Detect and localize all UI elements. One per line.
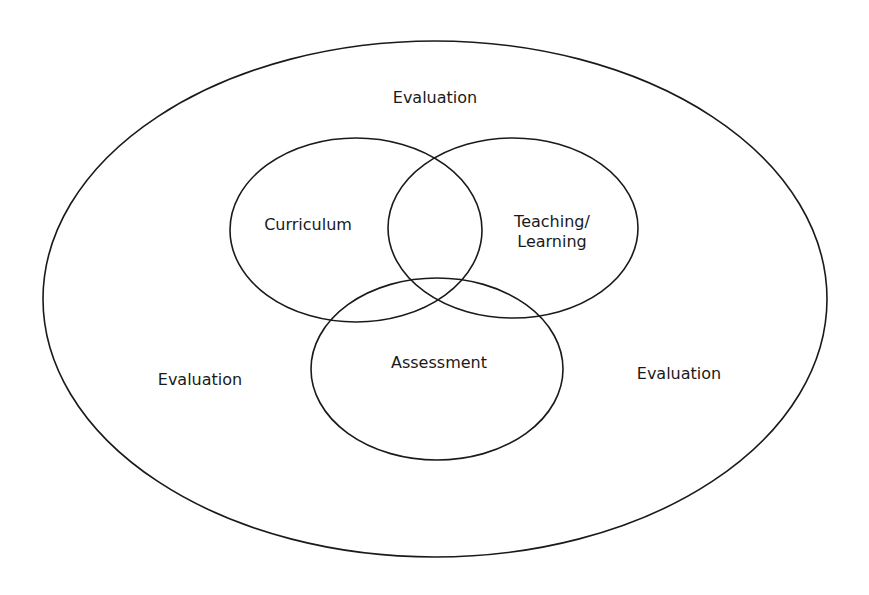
- teaching-learning-circle: [388, 138, 638, 318]
- learning-label: Learning: [517, 232, 586, 251]
- evaluation-label-left: Evaluation: [158, 370, 242, 389]
- curriculum-label: Curriculum: [264, 215, 352, 234]
- assessment-label: Assessment: [391, 353, 487, 372]
- evaluation-label-top: Evaluation: [393, 88, 477, 107]
- venn-diagram: Evaluation Evaluation Evaluation Curricu…: [0, 0, 869, 595]
- evaluation-label-right: Evaluation: [637, 364, 721, 383]
- teaching-label: Teaching/: [513, 212, 590, 231]
